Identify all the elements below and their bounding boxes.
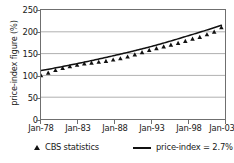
data-point-marker [96,60,101,64]
data-point-marker [197,35,202,39]
data-point-marker [183,39,188,43]
data-point-marker [190,37,195,41]
data-point-marker [169,43,174,47]
data-point-marker [205,32,210,36]
chart-figure: price-index figure (%) 250 200 150 100 5… [0,0,234,163]
data-point-marker [118,56,123,60]
data-point-marker [133,52,138,56]
legend-item-price-index: price-index = 2.7% [133,142,233,153]
line-marker-icon [133,147,151,149]
legend-label-cbs-statistics: CBS statistics [45,142,99,153]
x-axis-tick-labels: Jan-78 Jan-83 Jan-88 Jan-93 Jan-98 Jan-0… [0,123,234,135]
chart-legend: CBS statistics price-index = 2.7% [0,140,234,158]
x-tick-label: Jan-03 [209,123,234,134]
gridlines [41,32,225,97]
y-axis-tick-labels: 250 200 150 100 50 0 [12,0,38,130]
legend-label-price-index: price-index = 2.7% [156,142,233,153]
data-point-marker [161,44,166,48]
x-tick-label: Jan-88 [102,123,127,134]
data-point-marker [140,50,145,54]
data-point-marker [125,54,130,58]
x-tick-label: Jan-83 [65,123,90,134]
data-point-marker [154,46,159,50]
triangle-marker-icon [34,145,40,150]
x-tick-label: Jan-78 [28,123,53,134]
data-point-marker [147,48,152,52]
data-point-marker [111,57,116,61]
plot-area [40,9,226,120]
data-point-marker [176,41,181,45]
data-point-marker [104,59,109,63]
data-point-marker [46,71,51,75]
x-tick-label: Jan-98 [176,123,201,134]
plot-canvas [41,10,225,119]
legend-item-cbs-statistics: CBS statistics [34,142,99,153]
x-tick-label: Jan-93 [139,123,164,134]
